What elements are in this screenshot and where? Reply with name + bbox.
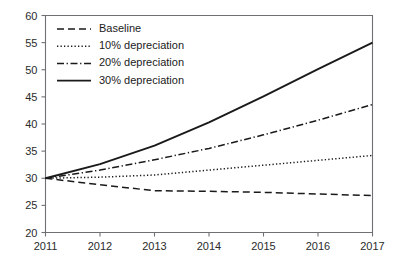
x-tick-label: 2012 (88, 240, 112, 252)
legend-label-3: 20% depreciation (99, 56, 184, 68)
y-tick-label: 40 (25, 118, 37, 130)
x-tick-label: 2014 (197, 240, 221, 252)
y-tick-label: 50 (25, 64, 37, 76)
legend-label-1: Baseline (99, 22, 141, 34)
line-chart: 202530354045505560 201120122013201420152… (0, 0, 411, 273)
legend-label-2: 10% depreciation (99, 39, 184, 51)
x-tick-label: 2015 (251, 240, 275, 252)
y-tick-label: 35 (25, 145, 37, 157)
x-tick-label: 2016 (306, 240, 330, 252)
y-tick-label: 20 (25, 227, 37, 239)
chart-canvas: 202530354045505560 201120122013201420152… (0, 0, 411, 273)
x-tick-label: 2013 (142, 240, 166, 252)
y-tick-label: 25 (25, 199, 37, 211)
x-tick-label: 2017 (360, 240, 384, 252)
y-tick-label: 30 (25, 172, 37, 184)
y-tick-label: 45 (25, 91, 37, 103)
legend-label-4: 30% depreciation (99, 74, 184, 86)
y-tick-label: 55 (25, 37, 37, 49)
x-tick-label: 2011 (34, 240, 58, 252)
y-tick-label: 60 (25, 10, 37, 22)
